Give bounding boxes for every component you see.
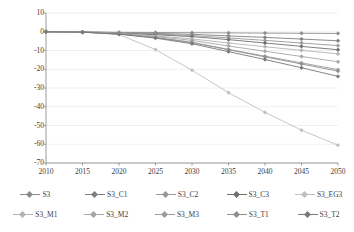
legend-key-icon (295, 190, 315, 199)
x-tick-label: 2030 (177, 167, 207, 176)
x-tick-label: 2025 (141, 167, 171, 176)
legend-item-label: S3_C2 (178, 190, 198, 199)
legend-key-icon (156, 190, 176, 199)
legend-item-S3_M3[interactable]: S3_M3 (142, 207, 213, 221)
plot-area: (Unit: Mt) 100-10-20-30-40-50-60-70 2010… (0, 0, 354, 182)
legend-item-S3_T1[interactable]: S3_T1 (212, 207, 283, 221)
legend-item-S3[interactable]: S3 (0, 187, 71, 201)
legend-item-label: S3_T2 (320, 210, 340, 219)
legend-key-icon (227, 190, 247, 199)
legend-item-label: S3_M1 (35, 210, 57, 219)
legend-item-S3_M1[interactable]: S3_M1 (0, 207, 71, 221)
x-tick-label: 2045 (287, 167, 317, 176)
legend-row-2: S3_M1S3_M2S3_M3S3_T1S3_T2 (0, 205, 354, 223)
x-tick-label: 2010 (31, 167, 61, 176)
legend-item-label: S3 (42, 190, 50, 199)
legend-diamond-marker-icon (91, 190, 98, 197)
line-chart: (Unit: Mt) 100-10-20-30-40-50-60-70 2010… (0, 0, 354, 232)
legend-item-label: S3_T1 (249, 210, 269, 219)
x-tick-label: 2015 (68, 167, 98, 176)
legend-diamond-marker-icon (26, 190, 33, 197)
x-tick-label: 2035 (214, 167, 244, 176)
legend-key-icon (84, 210, 104, 219)
legend-item-S3_C3[interactable]: S3_C3 (212, 187, 283, 201)
legend-item-S3_M2[interactable]: S3_M2 (71, 207, 142, 221)
legend-diamond-marker-icon (301, 190, 308, 197)
legend-item-label: S3_C3 (249, 190, 269, 199)
legend-diamond-marker-icon (161, 210, 168, 217)
legend-item-S3_EG3[interactable]: S3_EG3 (283, 187, 354, 201)
legend-item-label: S3_C1 (107, 190, 127, 199)
legend-key-icon (298, 210, 318, 219)
legend-diamond-marker-icon (19, 210, 26, 217)
legend-diamond-marker-icon (304, 210, 311, 217)
legend-diamond-marker-icon (162, 190, 169, 197)
legend-item-label: S3_EG3 (317, 190, 342, 199)
legend-key-icon (85, 190, 105, 199)
x-tick-label: 2020 (104, 167, 134, 176)
legend-key-icon (13, 210, 33, 219)
legend-diamond-marker-icon (233, 190, 240, 197)
legend-key-icon (20, 190, 40, 199)
legend-diamond-marker-icon (90, 210, 97, 217)
legend-key-icon (227, 210, 247, 219)
legend-item-S3_C2[interactable]: S3_C2 (142, 187, 213, 201)
chart-legend: S3S3_C1S3_C2S3_C3S3_EG3 S3_M1S3_M2S3_M3S… (0, 182, 354, 232)
legend-diamond-marker-icon (233, 210, 240, 217)
legend-item-label: S3_M2 (106, 210, 128, 219)
legend-item-S3_T2[interactable]: S3_T2 (283, 207, 354, 221)
x-tick-label: 2040 (250, 167, 280, 176)
legend-item-S3_C1[interactable]: S3_C1 (71, 187, 142, 201)
x-tick-label: 2050 (323, 167, 353, 176)
legend-item-label: S3_M3 (177, 210, 199, 219)
legend-key-icon (155, 210, 175, 219)
x-axis-tick-labels: 201020152020202520302035204020452050 (0, 0, 354, 182)
legend-row-1: S3S3_C1S3_C2S3_C3S3_EG3 (0, 185, 354, 203)
